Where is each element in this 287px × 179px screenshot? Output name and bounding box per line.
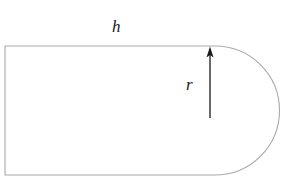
label-r: r bbox=[186, 76, 193, 93]
figure-background bbox=[0, 0, 287, 179]
label-h: h bbox=[112, 18, 121, 35]
geometry-figure: h r bbox=[0, 0, 287, 179]
figure-canvas bbox=[0, 0, 287, 179]
